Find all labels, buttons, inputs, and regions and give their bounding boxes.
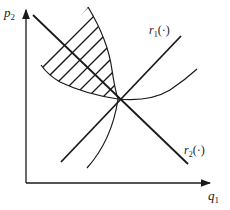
diagram-canvas: p2 q1 r1(·) r2(·) xyxy=(0,0,230,210)
y-axis-label: p2 xyxy=(3,5,15,22)
r2-label: r2(·) xyxy=(184,143,205,159)
r1-label: r1(·) xyxy=(149,23,170,39)
x-axis-label: q1 xyxy=(208,188,219,205)
hatched-region xyxy=(20,0,230,100)
reaction-line-r2 xyxy=(33,15,188,164)
isoprofit-curve-lower xyxy=(41,65,197,100)
